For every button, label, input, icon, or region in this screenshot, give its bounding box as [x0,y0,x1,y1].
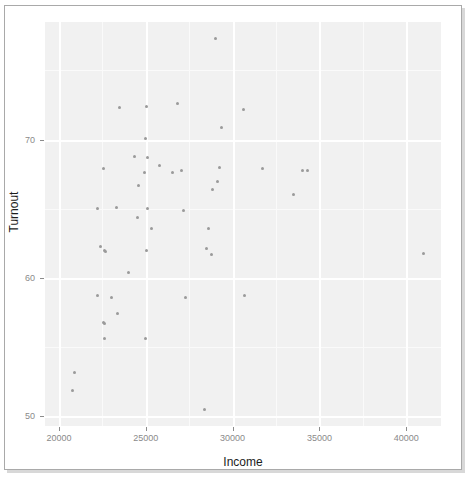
data-point [137,184,140,187]
x-tick-label: 35000 [295,434,343,443]
data-point [158,164,161,167]
gridline-major-vertical [146,22,148,426]
gridline-major-vertical [319,22,321,426]
x-tick-mark [319,427,320,431]
gridline-major-vertical [59,22,61,426]
scatter-plot-figure: 5060702000025000300003500040000 Income T… [0,0,468,487]
data-point [216,180,219,183]
data-point [71,389,74,392]
data-point [127,271,130,274]
y-tick-label: 50 [5,412,35,421]
data-point [242,108,245,111]
data-point [150,227,153,230]
data-point [118,106,121,109]
data-point [144,137,147,140]
data-point [180,169,183,172]
data-point [211,188,214,191]
gridline-major-vertical [233,22,235,426]
gridline-minor-horizontal [45,209,441,210]
gridline-major-horizontal [45,140,441,142]
x-tick-mark [233,427,234,431]
gridline-major-horizontal [45,278,441,280]
data-point [214,37,217,40]
x-axis-title: Income [45,455,441,469]
gridline-minor-vertical [363,22,364,426]
data-point [207,227,210,230]
data-point [102,167,105,170]
data-point [103,322,106,325]
data-point [205,247,208,250]
gridline-minor-horizontal [45,70,441,71]
data-point [146,207,149,210]
data-point [218,166,221,169]
data-point [145,105,148,108]
data-point [171,171,174,174]
data-point [110,296,113,299]
gridline-major-vertical [406,22,408,426]
data-point [136,216,139,219]
y-tick-mark [40,140,44,141]
data-point [133,155,136,158]
gridline-minor-vertical [276,22,277,426]
x-tick-mark [59,427,60,431]
data-point [96,207,99,210]
data-point [306,169,309,172]
data-point [210,253,213,256]
gridline-minor-vertical [189,22,190,426]
plot-panel [45,22,441,426]
data-point [104,250,107,253]
data-point [184,296,187,299]
y-tick-label: 70 [5,136,35,145]
y-tick-mark [40,416,44,417]
x-tick-mark [406,427,407,431]
data-point [146,156,149,159]
y-axis-title: Turnout [7,162,21,262]
data-point [99,245,102,248]
data-point [301,169,304,172]
x-tick-label: 25000 [122,434,170,443]
data-point [103,337,106,340]
data-point [261,167,264,170]
data-point [96,294,99,297]
data-point [292,193,295,196]
data-point [116,312,119,315]
gridline-minor-vertical [102,22,103,426]
x-tick-mark [146,427,147,431]
data-point [243,294,246,297]
gridline-major-horizontal [45,416,441,418]
data-point [143,171,146,174]
data-point [203,408,206,411]
data-point [73,371,76,374]
data-point [176,102,179,105]
data-point [220,126,223,129]
gridline-minor-horizontal [45,347,441,348]
y-tick-label: 60 [5,274,35,283]
x-tick-label: 30000 [209,434,257,443]
x-tick-label: 20000 [35,434,83,443]
x-tick-label: 40000 [382,434,430,443]
data-point [422,252,425,255]
data-point [145,249,148,252]
data-point [115,206,118,209]
y-tick-mark [40,278,44,279]
